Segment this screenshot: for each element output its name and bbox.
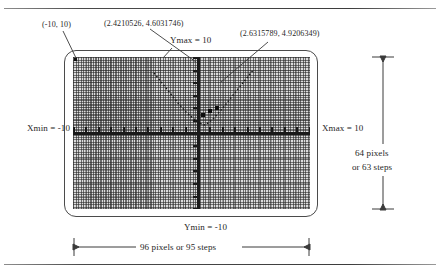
- page-rule-bottom: [4, 264, 436, 265]
- label-xmax: Xmax = 10: [322, 123, 363, 133]
- page-rule-top: [4, 8, 436, 9]
- callout-point-1: (2.4210526, 4.6031746): [104, 19, 184, 28]
- callout-top-left-corner: (-10, 10): [42, 20, 71, 29]
- callout-point-2: (2.6315789, 4.9206349): [240, 29, 320, 38]
- label-xmin: Xmin = -10: [27, 123, 70, 133]
- label-vertical-pixels: 64 pixels: [355, 148, 389, 158]
- calculator-window-figure: (-10, 10) (2.4210526, 4.6031746) (2.6315…: [0, 0, 440, 279]
- label-horizontal-dimension: 96 pixels or 95 steps: [140, 242, 216, 252]
- trace-marker-1: [201, 113, 205, 117]
- trace-marker-2: [208, 109, 212, 113]
- trace-cursor: [215, 106, 219, 110]
- label-ymin: Ymin = -10: [184, 222, 227, 232]
- plotted-curve: [73, 57, 310, 209]
- label-ymax: Ymax = 10: [170, 35, 211, 45]
- vertical-dimension-bar: [372, 56, 394, 210]
- calculator-screen: [73, 57, 310, 209]
- label-vertical-steps: or 63 steps: [352, 162, 392, 172]
